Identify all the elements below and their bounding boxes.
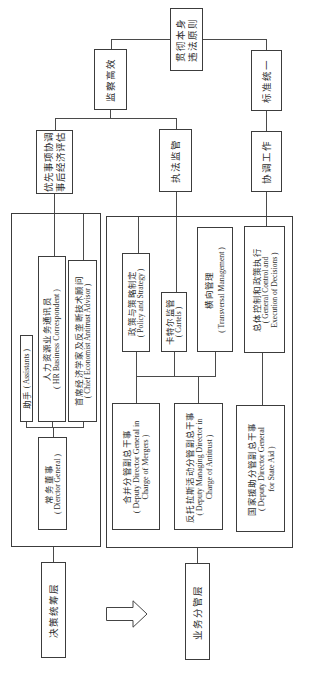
connector-line bbox=[55, 118, 56, 130]
box-text: 事后经济评估 bbox=[55, 132, 66, 192]
transversal-management-box: 横向管理 ( Transversal Management ) bbox=[197, 227, 233, 352]
connector-line bbox=[176, 118, 177, 129]
box-text: 违法原则 bbox=[187, 18, 198, 62]
connector-line bbox=[111, 39, 112, 49]
box-text: ( Deputy Managing Director in bbox=[194, 418, 203, 515]
hr-correspondent-box: 人力资源业务通讯员 ( HR Business Correspondent ) bbox=[38, 256, 66, 422]
deputy-mergers-box: 合并分管副总干事 ( Deputy Director General in Ch… bbox=[112, 403, 160, 530]
connector-line bbox=[266, 111, 267, 131]
box-text: Charge of Antitrust ) bbox=[204, 434, 213, 499]
chief-economist-box: 首席经济学家及反垄断技术顾问 ( Chief Economist Antitru… bbox=[68, 260, 97, 422]
box-text: 贯彻本身 bbox=[175, 18, 186, 62]
box-text: ( Cartels ) bbox=[175, 307, 184, 337]
director-general-box: 常务董事 ( Dierctor General ) bbox=[38, 437, 67, 530]
connector-line bbox=[197, 548, 198, 563]
box-text: 优先事项协调 bbox=[43, 132, 54, 192]
box-text: 常务董事 bbox=[43, 464, 53, 504]
box-text: for State Aid ) bbox=[266, 446, 275, 492]
box-text: 总体控制和政策执行 bbox=[251, 248, 261, 332]
connector-line bbox=[53, 546, 54, 562]
box-text: ( Dierctor General ) bbox=[53, 453, 62, 513]
box-text: ( Chief Economist Antitrust Advisor ) bbox=[83, 284, 92, 399]
connector-line bbox=[111, 39, 170, 40]
box-text: ( General Control and bbox=[261, 256, 270, 322]
box-text: 合并分管副总干事 bbox=[122, 429, 132, 503]
efficient-supervision-box: 监察高效 bbox=[94, 49, 127, 110]
general-control-box: 总体控制和政策执行 ( General Control and Executio… bbox=[244, 226, 285, 353]
decision-layer-label: 决策统筹层 bbox=[41, 562, 66, 658]
box-text: Charge of Mergers ) bbox=[141, 434, 150, 499]
box-text: Execution of Decisions ) bbox=[270, 252, 279, 327]
box-text: 人力资源业务通讯员 bbox=[42, 297, 52, 381]
box-text: 标准统一 bbox=[261, 59, 272, 103]
box-text: 监察高效 bbox=[105, 58, 116, 102]
box-text: ( HR Business Correspondent ) bbox=[52, 289, 61, 389]
connector-line bbox=[203, 39, 266, 40]
connector-line bbox=[266, 39, 267, 50]
unified-standards-box: 标准统一 bbox=[251, 50, 282, 111]
coordination-work-box: 协调工作 bbox=[251, 131, 282, 192]
box-text: 首席经济学家及反垄断技术顾问 bbox=[73, 276, 83, 406]
box-text: ( Policy and Strategy ) bbox=[137, 268, 146, 336]
policy-strategy-box: 政策与策略制定 ( Policy and Strategy ) bbox=[122, 253, 150, 352]
box-text: ( Deputy Director General in bbox=[132, 420, 141, 512]
business-layer-label: 业务分管层 bbox=[185, 563, 210, 660]
assistants-box: 助手 ( Assistants ) bbox=[20, 335, 33, 422]
cartels-box: 卡特尔监管 ( Cartels ) bbox=[161, 292, 187, 352]
enforcement-supervision-box: 执法监管 bbox=[159, 129, 192, 192]
box-text: 国家援助分管副总干事 bbox=[246, 422, 256, 515]
box-text: 业务分管层 bbox=[192, 584, 203, 639]
box-text: 助手 bbox=[21, 390, 31, 409]
priority-coordination-box: 优先事项协调 事后经济评估 bbox=[36, 130, 73, 194]
box-text: 反托拉斯活动分管副总干事 bbox=[184, 411, 194, 523]
box-text: 横向管理 bbox=[204, 271, 214, 308]
box-text: 执法监管 bbox=[170, 139, 181, 183]
connector-line bbox=[110, 110, 111, 118]
box-text: ( Transversal Management ) bbox=[218, 247, 227, 332]
box-text: ( Assistants ) bbox=[22, 349, 31, 388]
box-text: 协调工作 bbox=[261, 140, 272, 184]
per-se-illegality-box: 贯彻本身 违法原则 bbox=[170, 8, 203, 71]
box-text: ( Deputy Director General bbox=[256, 426, 265, 510]
connector-line bbox=[55, 118, 176, 119]
right-arrow-icon bbox=[106, 600, 148, 628]
deputy-state-aid-box: 国家援助分管副总干事 ( Deputy Director General for… bbox=[236, 405, 285, 532]
box-text: 决策统筹层 bbox=[48, 583, 59, 638]
deputy-antitrust-box: 反托拉斯活动分管副总干事 ( Deputy Managing Director … bbox=[174, 403, 223, 530]
